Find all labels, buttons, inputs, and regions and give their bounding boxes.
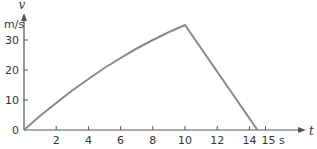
x-tick-label: 8 xyxy=(149,134,156,147)
y-tick-label: 20 xyxy=(5,64,19,77)
x-tick-label: 15 s xyxy=(262,134,285,147)
y-axis-label: v xyxy=(19,0,26,12)
y-tick-label: 0 xyxy=(12,124,19,137)
x-axis-arrow-icon xyxy=(298,127,306,133)
velocity-curve xyxy=(24,25,257,130)
y-axis-unit: m/s xyxy=(4,18,24,31)
x-tick-label: 4 xyxy=(85,134,92,147)
x-tick-label: 10 xyxy=(178,134,192,147)
y-tick-label: 30 xyxy=(5,34,19,47)
x-tick-label: 6 xyxy=(117,134,124,147)
x-tick-label: 12 xyxy=(210,134,224,147)
axis-labels: vm/st xyxy=(4,0,314,138)
data-series xyxy=(24,25,257,130)
axes xyxy=(21,13,306,133)
y-tick-label: 10 xyxy=(5,94,19,107)
x-tick-label: 2 xyxy=(53,134,60,147)
x-axis-label: t xyxy=(309,124,314,138)
x-tick-label: 14 xyxy=(242,134,256,147)
velocity-time-chart: 246810121415 s0102030 vm/st xyxy=(0,0,317,149)
